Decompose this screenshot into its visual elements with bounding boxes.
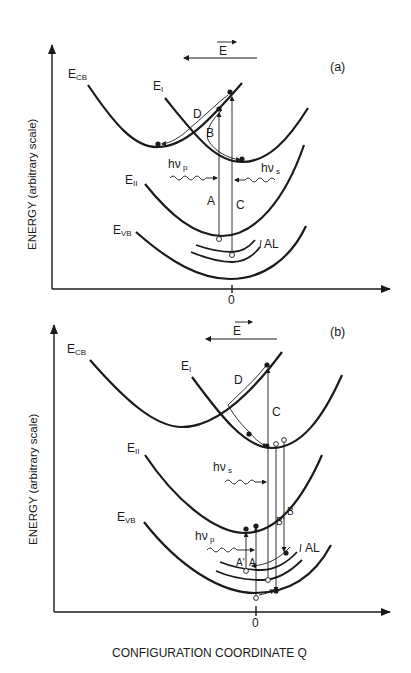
svg-text:s: s <box>228 466 232 475</box>
label-d: D <box>193 107 202 121</box>
svg-text:E: E <box>117 510 125 524</box>
hole <box>244 569 249 574</box>
svg-text:II: II <box>133 179 137 188</box>
signal-photon-wave <box>225 480 255 484</box>
hole <box>266 578 271 583</box>
curve-e2 <box>145 455 322 533</box>
svg-text:E: E <box>127 441 135 455</box>
label-hvp: hν p <box>195 529 215 544</box>
curve-evb <box>136 226 306 279</box>
label-al: AL <box>264 237 279 251</box>
signal-photon-wave <box>245 178 275 182</box>
q-axis-label: CONFIGURATION COORDINATE Q <box>112 646 307 660</box>
electron <box>155 141 160 146</box>
svg-text:VB: VB <box>125 516 136 525</box>
svg-text:I: I <box>189 365 191 374</box>
panel-b: 0 ENERGY (arbitrary scale) CONFIGURATION… <box>27 322 390 660</box>
zero-tick-label: 0 <box>252 616 259 630</box>
label-a-prime: A' <box>236 557 245 568</box>
svg-text:E: E <box>153 79 161 93</box>
electron <box>265 444 270 449</box>
svg-text:CB: CB <box>75 348 86 357</box>
svg-text:E: E <box>181 359 189 373</box>
zero-tick-label: 0 <box>228 293 235 307</box>
label-hvs: hν s <box>213 460 232 475</box>
label-b: B <box>206 126 214 140</box>
hole <box>217 237 222 242</box>
svg-text:p: p <box>183 163 188 172</box>
field-label: E <box>219 44 227 58</box>
panel-a: 0 ENERGY (arbitrary scale) E (a) E CB E … <box>26 42 390 307</box>
al-bracket <box>260 240 261 248</box>
electron <box>246 431 251 436</box>
svg-text:p: p <box>210 535 215 544</box>
label-hvp: hν p <box>168 157 188 172</box>
svg-text:E: E <box>113 223 121 237</box>
label-al: AL <box>305 541 320 555</box>
hole <box>282 438 287 443</box>
pump-photon-wave <box>170 176 206 180</box>
energy-axis-label: ENERGY (arbitrary scale) <box>26 118 38 250</box>
svg-text:CB: CB <box>76 73 87 82</box>
electron <box>243 526 248 531</box>
curve-al-upper <box>196 240 255 252</box>
electron <box>253 523 258 528</box>
svg-text:E: E <box>67 342 75 356</box>
svg-text:hν: hν <box>168 157 181 171</box>
configuration-coordinate-diagram: 0 ENERGY (arbitrary scale) E (a) E CB E … <box>0 0 411 673</box>
label-c: C <box>272 405 281 419</box>
panel-tag: (a) <box>330 60 345 74</box>
svg-text:hν: hν <box>195 529 208 543</box>
svg-text:VB: VB <box>121 229 132 238</box>
label-e2: E II <box>125 173 137 188</box>
svg-text:II: II <box>135 447 139 456</box>
svg-text:hν: hν <box>261 161 274 175</box>
label-e1: E I <box>153 79 163 94</box>
svg-text:s: s <box>276 167 280 176</box>
hole <box>254 596 259 601</box>
svg-text:I: I <box>161 85 163 94</box>
label-ecb: E CB <box>68 67 87 82</box>
hole <box>274 442 279 447</box>
label-d: D <box>234 373 243 387</box>
pump-photon-wave <box>207 548 237 552</box>
label-ecb: E CB <box>67 342 86 357</box>
svg-text:E: E <box>68 67 76 81</box>
label-evb: E VB <box>113 223 132 238</box>
curve-al-lower <box>191 247 260 262</box>
curve-e1 <box>192 375 342 448</box>
label-evb: E VB <box>117 510 136 525</box>
electron <box>239 156 244 161</box>
label-a: A <box>207 194 215 208</box>
label-b-prime: B' <box>276 516 285 527</box>
label-c: C <box>236 198 245 212</box>
svg-text:E: E <box>125 173 133 187</box>
al-bracket <box>300 544 301 552</box>
electron <box>283 550 288 555</box>
label-e2: E II <box>127 441 139 456</box>
electron <box>216 106 221 111</box>
energy-axis-label: ENERGY (arbitrary scale) <box>27 413 39 545</box>
label-e1: E I <box>181 359 191 374</box>
electron <box>273 588 278 593</box>
field-label: E <box>233 324 241 338</box>
curve-e1 <box>165 98 308 162</box>
hole <box>230 253 235 258</box>
svg-text:hν: hν <box>213 460 226 474</box>
label-hvs: hν s <box>261 161 280 176</box>
panel-tag: (b) <box>330 325 345 339</box>
label-b: B <box>287 506 294 517</box>
electron <box>227 89 232 94</box>
electron <box>264 362 269 367</box>
